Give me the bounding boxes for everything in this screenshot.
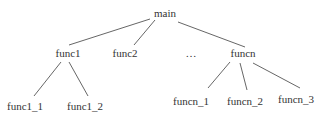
edge-func1-func1_1 (34, 62, 61, 96)
node-funcn-2: funcn_2 (227, 95, 263, 107)
node-funcn-3: funcn_3 (278, 93, 314, 105)
edge-funcn-funcn_3 (253, 63, 300, 88)
node-funcn: funcn (230, 47, 255, 59)
node-ellipsis: … (186, 47, 197, 59)
call-tree-diagram: main func1 func2 … funcn func1_1 func1_2… (0, 0, 323, 120)
node-main: main (154, 7, 176, 19)
edge-func1-func1_2 (69, 62, 88, 96)
edge-main-funcn (178, 22, 245, 47)
edge-funcn-funcn_2 (240, 63, 247, 90)
node-func2: func2 (112, 47, 137, 59)
node-func1-1: func1_1 (7, 100, 43, 112)
edge-main-func2 (134, 20, 155, 45)
node-funcn-1: funcn_1 (173, 95, 209, 107)
node-func1: func1 (55, 47, 80, 59)
edge-funcn-funcn_1 (208, 62, 230, 88)
node-func1-2: func1_2 (67, 100, 103, 112)
